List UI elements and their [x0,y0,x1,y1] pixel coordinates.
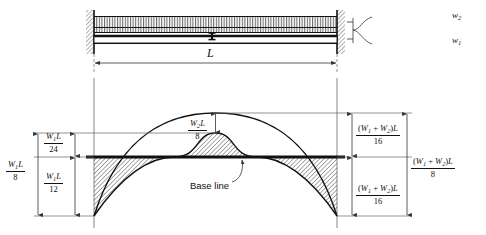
beam-diagram-svg [0,0,486,235]
load-band-lower-strip [94,28,337,33]
fraction-numerator: W2L [188,119,207,131]
fraction-ww-over-16-lower: (W1 + W2)L 16 [356,184,400,205]
fraction-denominator: 16 [356,196,400,206]
dimension-label-w1l-over-12: W1L 12 [44,172,63,193]
fraction-numerator: W1L [44,172,63,184]
base-line-leader [232,160,243,182]
dimension-label-w1-plus-w2-l-over-16-lower: (W1 + W2)L 16 [356,184,400,205]
dimension-label-w1-plus-w2-l-over-16-upper: (W1 + W2)L 16 [356,124,400,145]
fraction-w1l-over-8: W1L 8 [6,160,25,181]
fraction-numerator: (W1 + W2)L [356,124,400,136]
distributed-load-band [94,17,337,28]
load-label-w1: w1 [452,36,461,46]
support-right-fixed [337,10,345,54]
span-length-label: L [207,47,214,59]
support-left-fixed [86,10,94,54]
fraction-denominator: 8 [6,172,25,182]
fraction-ww-over-8: (W1 + W2)L 8 [411,157,455,178]
fraction-ww-over-16-upper: (W1 + W2)L 16 [356,124,400,145]
fraction-denominator: 8 [188,131,207,141]
beam-elevation [86,10,372,54]
fraction-denominator: 12 [44,184,63,194]
dimension-label-w1-plus-w2-l-over-8: (W1 + W2)L 8 [411,157,455,178]
span-dimension-L [94,54,337,72]
dimension-label-w1l-over-8: W1L 8 [6,160,25,181]
fraction-numerator: W1L [44,132,63,144]
load-label-leaders [347,17,372,44]
fraction-numerator: W1L [6,160,25,172]
dimension-label-w1l-over-24: W1L 24 [44,132,63,153]
load-label-w1-sub: 1 [458,39,461,46]
fraction-w2l-over-8: W2L 8 [188,119,207,140]
base-line-label: Base line [190,181,229,191]
fraction-numerator: (W1 + W2)L [411,157,455,169]
fraction-denominator: 24 [44,144,63,154]
fraction-w1l-over-24: W1L 24 [44,132,63,153]
load-label-w2: w2 [452,11,461,21]
fraction-numerator: (W1 + W2)L [356,184,400,196]
fraction-denominator: 8 [411,169,455,179]
figure-canvas: L w2 w1 W1L 8 W1L 24 W1L 12 W2L 8 (W1 + … [0,0,486,235]
hatched-area-upper [174,133,257,157]
fraction-denominator: 16 [356,136,400,146]
fraction-w1l-over-12: W1L 12 [44,172,63,193]
load-label-w2-sub: 2 [458,14,461,21]
dimension-label-w2l-over-8: W2L 8 [188,119,207,140]
